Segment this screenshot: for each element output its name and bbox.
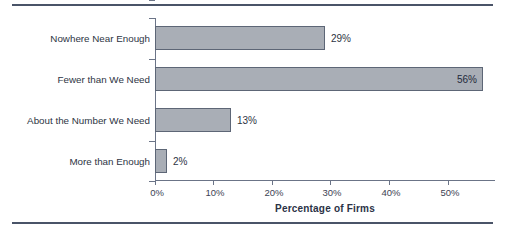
x-axis-tick xyxy=(155,180,156,185)
category-label-3: More than Enough xyxy=(69,156,150,167)
category-label-0: Nowhere Near Enough xyxy=(50,33,150,44)
chart-figure: Nowhere Near Enough Fewer than We Need A… xyxy=(0,0,505,232)
bar-value-label-1: 56% xyxy=(419,74,477,85)
x-axis-tick-label-2: 20% xyxy=(264,187,283,198)
x-axis-tick xyxy=(448,180,449,185)
y-axis-tick xyxy=(149,59,155,60)
bar-about-the-number-we-need[interactable] xyxy=(155,108,231,132)
bar-nowhere-near-enough[interactable] xyxy=(155,26,325,50)
bar-value-label-3: 2% xyxy=(173,156,187,167)
x-axis-tick xyxy=(389,180,390,185)
x-axis-line xyxy=(155,180,495,181)
x-axis-tick xyxy=(272,180,273,185)
x-axis-tick xyxy=(330,180,331,185)
x-axis-tick-label-3: 30% xyxy=(322,187,341,198)
category-label-1: Fewer than We Need xyxy=(58,74,150,85)
x-axis-tick-label-0: 0% xyxy=(150,187,164,198)
bar-chart-plot-area: Nowhere Near Enough Fewer than We Need A… xyxy=(0,0,505,232)
x-axis-tick-label-5: 50% xyxy=(440,187,459,198)
x-axis-tick-label-4: 40% xyxy=(381,187,400,198)
category-label-2: About the Number We Need xyxy=(27,115,150,126)
bar-value-label-0: 29% xyxy=(331,33,351,44)
x-axis-title: Percentage of Firms xyxy=(155,203,495,214)
y-axis-tick xyxy=(149,18,155,19)
bar-more-than-enough[interactable] xyxy=(155,149,167,173)
x-axis-tick-label-1: 10% xyxy=(205,187,224,198)
y-axis-tick xyxy=(149,0,155,1)
y-axis-tick xyxy=(149,141,155,142)
x-axis-tick xyxy=(213,180,214,185)
bar-value-label-2: 13% xyxy=(237,115,257,126)
